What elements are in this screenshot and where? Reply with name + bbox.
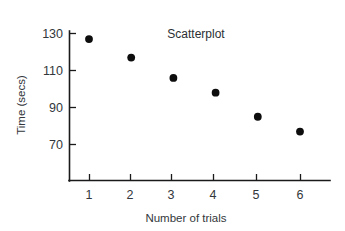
x-tick-label-1: 1 <box>86 188 93 202</box>
x-tick-label-5: 5 <box>253 188 260 202</box>
data-point <box>170 74 178 82</box>
y-axis-title: Time (secs) <box>15 75 27 135</box>
scatterplot-figure: 130 110 90 70 1 2 3 4 5 6 Scatterplot Nu… <box>0 0 345 231</box>
x-tick-label-3: 3 <box>168 188 175 202</box>
data-point <box>85 35 93 43</box>
x-tick-label-6: 6 <box>297 188 304 202</box>
x-axis-ticks <box>90 174 301 181</box>
y-tick-label-70: 70 <box>49 138 63 152</box>
data-points-group <box>85 35 304 135</box>
y-axis-ticks <box>70 34 77 145</box>
x-axis-title: Number of trials <box>145 212 226 224</box>
data-point <box>127 54 135 62</box>
data-point <box>212 89 220 97</box>
y-tick-label-90: 90 <box>49 101 63 115</box>
plot-canvas: 130 110 90 70 1 2 3 4 5 6 Scatterplot Nu… <box>0 0 345 231</box>
data-point <box>254 113 262 121</box>
data-point <box>296 128 304 136</box>
x-tick-label-2: 2 <box>127 188 134 202</box>
y-tick-label-130: 130 <box>42 27 63 41</box>
y-tick-label-110: 110 <box>43 64 63 78</box>
chart-title: Scatterplot <box>167 27 225 41</box>
x-tick-label-4: 4 <box>210 188 217 202</box>
